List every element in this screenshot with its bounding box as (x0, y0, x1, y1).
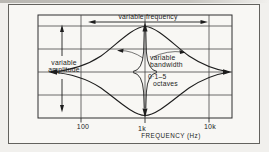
arrowhead-right-icon (223, 69, 232, 74)
x-tick-1k: 1k (138, 125, 146, 132)
arrowhead-down-icon (143, 109, 148, 119)
arrowhead-down-icon (60, 105, 64, 113)
variable-bandwidth-line1: variable (150, 54, 183, 61)
variable-amplitude-line1: variable (48, 59, 79, 66)
octave-range-label: 0·1–5 octaves (148, 73, 178, 88)
axis-tick-marks (81, 118, 209, 123)
variable-amplitude-label: variable amplitude (48, 59, 79, 74)
x-tick-10k: 10k (204, 123, 216, 130)
octave-range-value: 0·1–5 (148, 73, 178, 80)
variable-frequency-label: variable frequency (118, 13, 177, 20)
variable-bandwidth-line2: bandwidth (150, 61, 183, 68)
variable-bandwidth-label: variable bandwidth (150, 54, 183, 69)
variable-amplitude-line2: amplitude (48, 66, 79, 73)
scanned-figure: variable frequency variable amplitude va… (0, 0, 269, 152)
x-axis-title: FREQUENCY (Hz) (141, 132, 200, 139)
arrowhead-left-icon (88, 20, 96, 24)
x-tick-100: 100 (77, 123, 90, 130)
wide-bell-lower (51, 72, 229, 116)
arrowhead-right-icon (201, 20, 209, 24)
eq-response-diagram (0, 0, 269, 152)
octave-range-unit: octaves (148, 80, 178, 87)
frequency-range-arrow (88, 20, 208, 24)
